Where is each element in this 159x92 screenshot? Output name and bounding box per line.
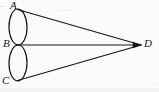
scan-speckle — [150, 84, 158, 85]
vertex-label-a: A — [10, 0, 17, 11]
vertex-label-c: C — [2, 75, 9, 86]
lower-ellipse — [9, 45, 28, 81]
vertex-label-b: B — [3, 38, 10, 49]
scan-speckle — [58, 10, 72, 11]
geometry-figure: A B C D — [0, 0, 159, 92]
vertex-label-d: D — [144, 38, 152, 49]
scan-speckle — [40, 76, 46, 77]
upper-ellipse — [9, 9, 28, 45]
vertex-d-node — [133, 42, 141, 48]
segment-AD — [18, 10, 142, 46]
scan-speckle — [0, 6, 5, 7]
figure-canvas — [0, 0, 159, 92]
segment-CD — [18, 45, 142, 81]
scan-edge-shade — [0, 88, 159, 92]
